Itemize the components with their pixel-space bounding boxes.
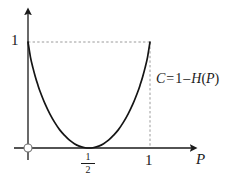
curve-equation-annotation: C=1–H(P) [156, 72, 219, 86]
equation-entropy-symbol: H [191, 71, 201, 86]
equation-argument: P [206, 71, 215, 86]
equation-close-paren: ) [215, 71, 220, 86]
x-axis-title: P [196, 152, 205, 167]
origin-circle-icon [24, 144, 32, 152]
fraction-denominator: 2 [81, 164, 95, 175]
y-axis-tick-label-one: 1 [11, 33, 19, 48]
x-axis-tick-label-one-half: 1 2 [81, 152, 95, 175]
fraction-numerator: 1 [81, 152, 95, 164]
plot-canvas [0, 0, 249, 188]
capacity-plot-figure: 1 1 2 1 P C=1–H(P) [0, 0, 249, 188]
equation-minus: – [182, 71, 191, 86]
equation-lhs: C [156, 71, 165, 86]
x-axis-tick-label-one: 1 [145, 153, 153, 168]
equation-equals: = [165, 71, 175, 86]
capacity-curve [28, 42, 150, 148]
